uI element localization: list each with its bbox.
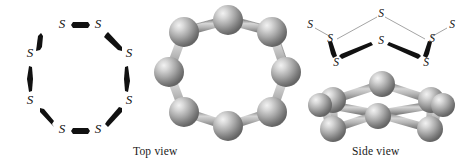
crown-atom-label-left-outer: S: [307, 18, 313, 30]
sphere-atom-3: [257, 17, 287, 47]
sphere-atom-6: [213, 111, 243, 141]
skeletal-octagon-top-view-panel: S S S S S S S S: [0, 0, 155, 140]
sphere-atom-1: [169, 17, 199, 47]
skeletal-crown-side-view-panel: S S S S S S S S: [298, 2, 462, 72]
crown-sphere-right-low: [417, 116, 443, 142]
sphere-atom-4: [271, 57, 301, 87]
crown-atom-label-top: S: [378, 7, 384, 19]
atom-label-s6: S: [59, 121, 66, 136]
s8-molecule-figure: S S S S S S S S: [0, 0, 462, 164]
ball-and-stick-crown-svg: [300, 72, 462, 142]
crown-sphere-right-front: [431, 93, 455, 117]
bond-s1-s2: [71, 22, 90, 28]
crown-sphere-left-front: [308, 93, 332, 117]
bond-s4-s5: [105, 107, 122, 127]
crown-atom-label-right-mid: S: [429, 32, 435, 44]
crown-sphere-apex: [369, 71, 395, 97]
atom-label-s2: S: [95, 16, 102, 31]
atom-label-s1: S: [59, 16, 66, 31]
crown-atom-label-left-low: S: [333, 56, 339, 68]
skeletal-octagon-svg: S S S S S S S S: [0, 0, 155, 140]
bond-back-topS-to-leftmid: [337, 17, 377, 39]
crown-sphere-group: [308, 71, 455, 142]
sphere-atom-5: [257, 97, 287, 127]
crown-atom-label-right-low: S: [423, 56, 429, 68]
bond-front-center-to-left: [339, 42, 373, 59]
sphere-atom-8: [154, 57, 184, 87]
bond-back-topS-to-rightmid: [385, 17, 425, 39]
atom-label-s7: S: [27, 92, 34, 107]
atom-label-s8: S: [27, 45, 34, 60]
bond-front-center-to-right: [387, 42, 421, 59]
ring-sphere-group: [154, 5, 301, 141]
crown-sphere-center-front: [365, 103, 391, 129]
atom-label-s4: S: [126, 92, 133, 107]
atom-label-s3: S: [126, 45, 133, 60]
sphere-atom-7: [169, 97, 199, 127]
ball-and-stick-ring-svg: [152, 4, 304, 144]
skeletal-crown-svg: S S S S S S S S: [298, 2, 462, 72]
crown-atom-label-center-front: S: [378, 34, 384, 46]
bond-s6-s7: [40, 108, 54, 127]
bond-s3-s4: [124, 66, 130, 92]
crown-sphere-left-low: [320, 116, 346, 142]
crown-atom-label-left-mid: S: [327, 32, 333, 44]
caption-side-view: Side view: [352, 145, 399, 157]
bond-s5-s6: [71, 128, 90, 134]
ball-and-stick-ring-top-view-panel: [152, 4, 304, 144]
bond-s8-s1: [36, 33, 43, 51]
sphere-atom-2: [213, 5, 243, 35]
ball-and-stick-crown-side-view-panel: [300, 72, 462, 142]
octagon-atom-label-group: S S S S S S S S: [27, 16, 133, 136]
octagon-bond-group: [27, 22, 130, 134]
bond-s7-s8: [27, 66, 33, 92]
crown-atom-label-right-outer: S: [449, 18, 455, 30]
crown-atom-label-group: S S S S S S S S: [307, 7, 455, 68]
atom-label-s5: S: [95, 121, 102, 136]
bond-s2-s3: [104, 32, 122, 51]
caption-top-view: Top view: [133, 145, 178, 157]
